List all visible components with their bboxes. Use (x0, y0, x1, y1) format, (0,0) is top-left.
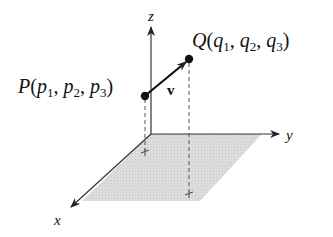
point-p-label: P(p1, p2, p3) (17, 75, 113, 100)
point-p (141, 92, 149, 100)
y-axis-label: y (284, 127, 293, 143)
xy-plane (82, 134, 262, 201)
point-q-label: Q(q1, q2, q3) (192, 29, 289, 54)
z-axis-label: z (147, 8, 154, 24)
vector-diagram: z y x v P(p1, p2, p3) Q(q1, q2, q3) (0, 0, 333, 237)
vector-v (146, 62, 186, 95)
vector-v-label: v (167, 82, 175, 98)
x-axis-label: x (53, 212, 61, 228)
point-q (185, 55, 193, 63)
